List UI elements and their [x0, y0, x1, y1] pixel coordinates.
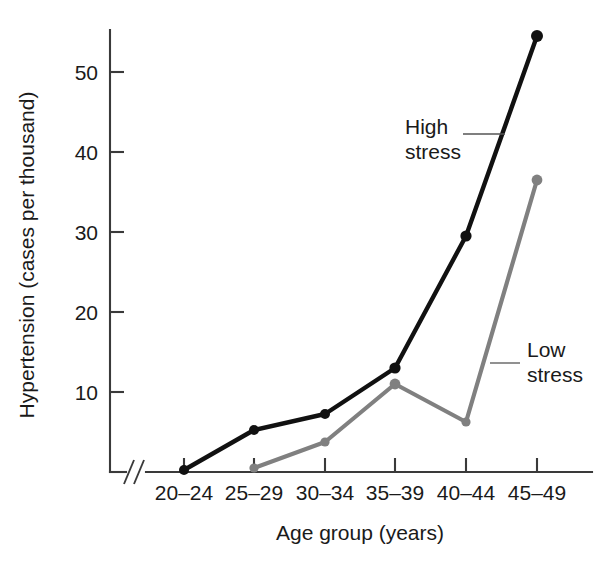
series-point-high-stress-20-24 — [179, 465, 189, 475]
x-tick-label-25-29: 25–29 — [225, 481, 283, 504]
chart-canvas: 10 20 30 40 50 20–24 25–29 30–34 35–39 4… — [0, 0, 614, 561]
y-tick-label-40: 40 — [75, 141, 98, 164]
x-axis-title: Age group (years) — [276, 521, 444, 544]
series-point-high-stress-45-49 — [531, 30, 543, 42]
series-line-high-stress — [184, 36, 537, 470]
x-tick-label-40-44: 40–44 — [437, 481, 496, 504]
y-tick-label-10: 10 — [75, 381, 98, 404]
y-axis-title: Hypertension (cases per thousand) — [15, 92, 38, 419]
low-stress-label-line1: Low — [527, 338, 566, 361]
y-tick-label-20: 20 — [75, 301, 98, 324]
series-point-high-stress-40-44 — [460, 230, 471, 241]
y-tick-label-50: 50 — [75, 61, 98, 84]
axis-break-slash-2 — [134, 460, 144, 484]
high-stress-label-line2: stress — [405, 140, 461, 163]
series-point-high-stress-35-39 — [389, 362, 400, 373]
series-line-low-stress — [254, 180, 537, 468]
x-tick-label-35-39: 35–39 — [366, 481, 424, 504]
x-tick-label-30-34: 30–34 — [296, 481, 355, 504]
series-point-low-stress-25-29 — [249, 463, 258, 472]
high-stress-label-line1: High — [405, 115, 448, 138]
y-tick-label-30: 30 — [75, 221, 98, 244]
series-point-low-stress-35-39 — [390, 379, 401, 390]
series-point-low-stress-45-49 — [532, 175, 543, 186]
hypertension-line-chart: 10 20 30 40 50 20–24 25–29 30–34 35–39 4… — [0, 0, 614, 561]
x-tick-label-45-49: 45–49 — [508, 481, 566, 504]
x-tick-label-20-24: 20–24 — [155, 481, 214, 504]
series-point-low-stress-40-44 — [461, 417, 470, 426]
series-point-high-stress-25-29 — [249, 425, 259, 435]
low-stress-label-line2: stress — [527, 363, 583, 386]
series-point-high-stress-30-34 — [320, 409, 330, 419]
series-point-low-stress-30-34 — [320, 437, 329, 446]
